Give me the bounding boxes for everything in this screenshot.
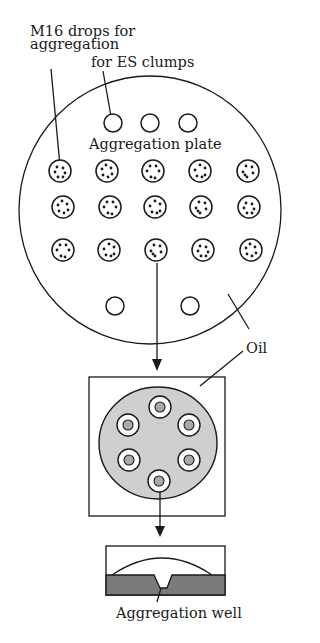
es-cell-clump (204, 202, 207, 205)
es-cell-clump (197, 250, 200, 253)
es-cell-clump (205, 246, 208, 249)
es-cell-clump (63, 212, 66, 215)
es-cell-clump (154, 200, 157, 203)
m16-drop-outline (144, 196, 166, 218)
es-cell-clump (153, 244, 156, 247)
es-cell-clump (103, 248, 106, 251)
es-cell-clump (204, 167, 207, 170)
es-cell-clump (204, 174, 207, 177)
es-cell-clump (159, 203, 162, 206)
es-cell-clump (251, 203, 254, 206)
ring-well (149, 396, 171, 418)
m16-drop (190, 196, 212, 218)
m16-drop (52, 239, 74, 261)
ring-well-inner (155, 402, 165, 412)
es-cell-clump (246, 176, 249, 179)
es-cell-clump (243, 207, 246, 210)
es-cell-clump (207, 251, 210, 254)
m16-drop (237, 160, 259, 182)
m16-drop-grid (49, 160, 262, 261)
es-cell-clump (201, 176, 204, 179)
es-cell-clump (105, 254, 108, 257)
es-cell-clump (198, 201, 201, 204)
ring-well-inner (184, 455, 194, 465)
m16-drop (98, 239, 120, 261)
ring-well-inner (124, 455, 134, 465)
es-cell-clump (251, 212, 254, 215)
label-oil: Oil (246, 340, 268, 356)
es-cell-clump (57, 176, 60, 179)
es-cell-clump (159, 245, 162, 248)
leader-dish-oil (200, 351, 243, 386)
es-cell-clump (252, 172, 255, 175)
label-aggregation-plate: Aggregation plate (88, 136, 222, 152)
es-cell-clump (150, 176, 153, 179)
m16-drop (144, 196, 166, 218)
es-cell-clump (108, 243, 111, 246)
m16-drop-outline (145, 239, 167, 261)
es-cell-clump (54, 171, 57, 174)
es-cell-clump (68, 249, 71, 252)
ring-well-inner (184, 420, 194, 430)
es-cell-clump (155, 165, 158, 168)
es-cell-clump (253, 208, 256, 211)
ring-well (178, 449, 200, 471)
es-cell-clump (105, 164, 108, 167)
es-cell-clump (64, 172, 67, 175)
label-aggregation-well: Aggregation well (115, 605, 242, 621)
es-cell-clump (107, 176, 110, 179)
empty-drop (141, 114, 159, 132)
m16-drop-outline (237, 160, 259, 182)
es-cell-clump (150, 250, 153, 253)
empty-drop (104, 114, 122, 132)
es-cell-clump (160, 251, 163, 254)
es-cell-clump (60, 255, 63, 258)
es-cell-clump (196, 175, 199, 178)
es-cell-clump (200, 255, 203, 258)
empty-drop (181, 297, 199, 315)
es-cell-clump (197, 210, 200, 213)
es-cell-clump (245, 165, 248, 168)
ring-well (148, 470, 170, 492)
es-cell-clump (56, 166, 59, 169)
es-cell-clump (101, 168, 104, 171)
es-cell-clump (254, 246, 257, 249)
m16-drop-outline (192, 239, 214, 261)
es-cell-clump (66, 203, 69, 206)
es-cell-clump (56, 249, 59, 252)
m16-drop-outline (96, 160, 118, 182)
m16-drop (145, 239, 167, 261)
empty-drop (179, 114, 197, 132)
es-cell-clump (149, 165, 152, 168)
m16-drop (49, 160, 71, 182)
es-cell-clump (242, 171, 245, 174)
es-cell-clump (59, 244, 62, 247)
m16-drop-outline (189, 160, 211, 182)
m16-drop-outline (98, 239, 120, 261)
es-cell-clump (67, 209, 70, 212)
es-cell-clump (111, 213, 114, 216)
es-cell-clump (146, 170, 149, 173)
empty-drops-bottom (106, 297, 199, 315)
es-cell-clump (111, 173, 114, 176)
es-cell-clump (199, 164, 202, 167)
m16-drop (142, 160, 164, 182)
es-cell-clump (57, 204, 60, 207)
arrow-dish-to-well-head (155, 526, 165, 537)
es-cell-clump (113, 253, 116, 256)
es-cell-clump (64, 256, 67, 259)
es-cell-clump (199, 212, 202, 215)
ring-well-inner (154, 476, 164, 486)
es-cell-clump (62, 167, 65, 170)
es-cell-clump (110, 167, 113, 170)
es-cell-clump (61, 200, 64, 203)
m16-drop (96, 160, 118, 182)
es-cell-clump (251, 166, 254, 169)
es-cell-clump (251, 255, 254, 258)
es-cell-clump (244, 174, 247, 177)
es-cell-clump (246, 253, 249, 256)
es-cell-clump (152, 253, 155, 256)
es-cell-clump (107, 212, 110, 215)
m16-drop (238, 196, 260, 218)
empty-drops-top (104, 114, 197, 132)
